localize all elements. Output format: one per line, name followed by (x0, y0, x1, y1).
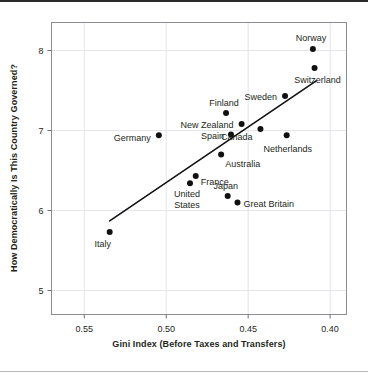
points-layer: ItalyGermanyUnitedStatesFranceAustraliaS… (94, 33, 340, 249)
data-point-label: Great Britain (244, 199, 295, 209)
data-point[interactable] (193, 173, 199, 179)
data-point[interactable] (218, 152, 224, 158)
data-point-label: Switzerland (294, 75, 341, 85)
x-axis-title: Gini Index (Before Taxes and Transfers) (112, 339, 285, 349)
x-tick-label: 0.45 (239, 324, 257, 334)
y-tick-label: 6 (38, 206, 43, 216)
data-point[interactable] (239, 121, 245, 127)
data-point-label: Germany (114, 133, 152, 143)
x-tick-label: 0.50 (157, 324, 175, 334)
data-point[interactable] (225, 193, 231, 199)
data-point[interactable] (107, 229, 113, 235)
data-point-label: Australia (225, 159, 260, 169)
data-point[interactable] (156, 132, 162, 138)
y-tick-label: 8 (38, 46, 43, 56)
x-tick-label: 0.40 (321, 324, 339, 334)
grid-layer (52, 23, 347, 315)
data-point[interactable] (312, 65, 318, 71)
data-point-label: Finland (209, 98, 239, 108)
data-point[interactable] (235, 200, 241, 206)
y-axis-title: How Democratically Is This Country Gover… (9, 64, 19, 272)
data-point[interactable] (257, 126, 263, 132)
plot-frame (52, 23, 347, 315)
data-point-label: Sweden (245, 92, 278, 102)
y-tick-label: 5 (38, 286, 43, 296)
data-point-label: New Zealand (181, 120, 234, 130)
x-tick-label: 0.55 (76, 324, 94, 334)
scatter-plot: 56780.550.500.450.40 ItalyGermanyUnitedS… (0, 0, 368, 375)
data-point[interactable] (284, 132, 290, 138)
figure-container: 56780.550.500.450.40 ItalyGermanyUnitedS… (0, 0, 368, 375)
data-point-label: Italy (94, 239, 111, 249)
data-point[interactable] (310, 46, 316, 52)
data-point[interactable] (282, 93, 288, 99)
data-point-label: States (174, 200, 200, 210)
data-point-label: Netherlands (263, 144, 312, 154)
data-point-label: Norway (296, 33, 327, 43)
data-point[interactable] (223, 110, 229, 116)
data-point-label: Canada (221, 132, 253, 142)
data-point-label: United (174, 189, 200, 199)
data-point-label: Japan (213, 181, 238, 191)
data-point[interactable] (187, 180, 193, 186)
y-tick-label: 7 (38, 126, 43, 136)
